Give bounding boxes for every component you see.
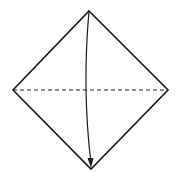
origami-diagram: [0, 0, 179, 182]
